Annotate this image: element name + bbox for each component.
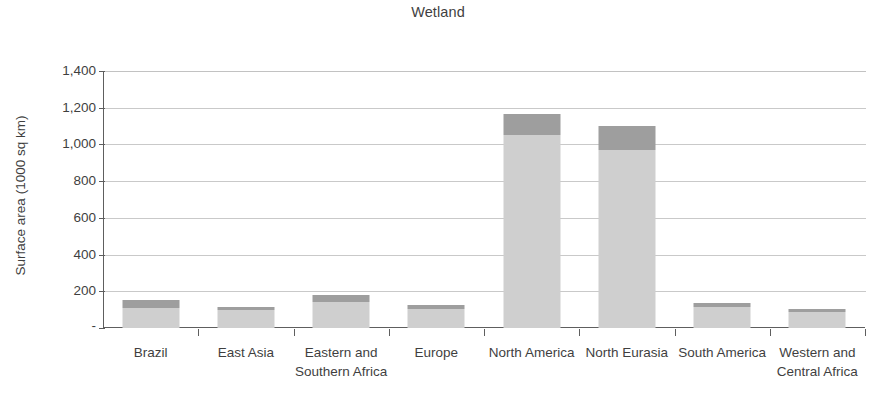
x-axis-tick-labels: BrazilEast AsiaEastern and Southern Afri…	[103, 343, 865, 417]
bar-stack[interactable]	[313, 295, 370, 328]
bar-segment-lower[interactable]	[789, 312, 846, 328]
bar-group-western-and-central-africa[interactable]	[770, 71, 865, 328]
x-tick-label: Western and Central Africa	[770, 343, 865, 381]
x-tick-mark	[579, 329, 580, 336]
bar-segment-lower[interactable]	[408, 309, 465, 328]
wetland-surface-area-chart: Wetland Surface area (1000 sq km) 1,4001…	[0, 0, 884, 419]
x-tick-mark	[198, 329, 199, 336]
x-tick-label: Europe	[389, 343, 484, 362]
bar-stack[interactable]	[598, 126, 655, 328]
bar-segment-lower[interactable]	[503, 135, 560, 328]
y-tick-label: 1,200	[40, 101, 96, 115]
x-tick-label: East Asia	[198, 343, 293, 362]
bar-group-europe[interactable]	[389, 71, 484, 328]
bar-segment-lower[interactable]	[122, 308, 179, 328]
bar-group-brazil[interactable]	[103, 71, 198, 328]
chart-title: Wetland	[0, 4, 884, 20]
x-tick-label: South America	[675, 343, 770, 362]
bar-segment-upper[interactable]	[122, 300, 179, 308]
bar-group-north-america[interactable]	[484, 71, 579, 328]
bar-group-east-asia[interactable]	[198, 71, 293, 328]
bar-segment-lower[interactable]	[313, 302, 370, 328]
bar-stack[interactable]	[122, 300, 179, 328]
x-axis-tick-marks	[103, 329, 865, 337]
bar-segment-upper[interactable]	[313, 295, 370, 302]
x-tick-label: Eastern and Southern Africa	[294, 343, 389, 381]
bar-stack[interactable]	[694, 303, 751, 328]
x-tick-mark	[865, 329, 866, 336]
chart-title-text: Wetland	[411, 4, 465, 20]
bar-segment-upper[interactable]	[598, 126, 655, 150]
x-tick-label: North America	[484, 343, 579, 362]
y-axis-tick-labels: 1,4001,2001,000800600400200-	[40, 71, 96, 328]
bar-segment-lower[interactable]	[598, 150, 655, 328]
bar-series-group	[103, 71, 865, 328]
y-tick-label: 400	[40, 248, 96, 262]
y-tick-label: 600	[40, 211, 96, 225]
bar-segment-lower[interactable]	[217, 310, 274, 328]
bar-stack[interactable]	[789, 309, 846, 328]
bar-segment-lower[interactable]	[694, 307, 751, 328]
y-axis-title-text: Surface area (1000 sq km)	[14, 115, 29, 275]
x-tick-label: Brazil	[103, 343, 198, 362]
bar-segment-upper[interactable]	[503, 114, 560, 136]
bar-stack[interactable]	[503, 114, 560, 328]
x-tick-mark	[389, 329, 390, 336]
x-tick-mark	[675, 329, 676, 336]
bar-group-south-america[interactable]	[675, 71, 770, 328]
bar-group-eastern-and-southern-africa[interactable]	[294, 71, 389, 328]
y-tick-label: -	[40, 319, 96, 333]
bar-stack[interactable]	[217, 307, 274, 328]
x-tick-mark	[770, 329, 771, 336]
bar-stack[interactable]	[408, 305, 465, 328]
y-tick-label: 1,400	[40, 64, 96, 78]
y-tick-label: 1,000	[40, 138, 96, 152]
bar-group-north-eurasia[interactable]	[579, 71, 674, 328]
y-axis-title: Surface area (1000 sq km)	[10, 60, 32, 330]
x-tick-mark	[294, 329, 295, 336]
y-tick-label: 800	[40, 174, 96, 188]
x-tick-mark	[484, 329, 485, 336]
x-tick-label: North Eurasia	[579, 343, 674, 362]
y-tick-label: 200	[40, 285, 96, 299]
